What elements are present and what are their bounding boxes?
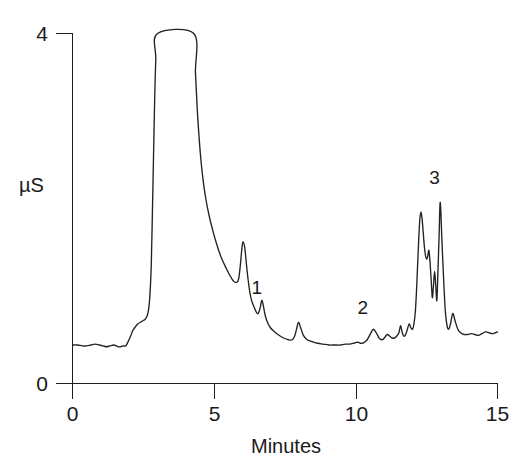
chromatogram-plot: 4 0 0 5 10 15 µS Minutes 123	[0, 0, 527, 474]
x-tick-label-10: 10	[345, 402, 368, 425]
peak-label-group: 123	[251, 167, 439, 318]
chromatogram-trace	[73, 29, 498, 347]
chromatogram-figure: 4 0 0 5 10 15 µS Minutes 123	[0, 0, 527, 474]
peak-label-3: 3	[429, 167, 440, 188]
x-tick-label-0: 0	[67, 402, 79, 425]
peak-label-1: 1	[251, 277, 262, 298]
peak-label-2: 2	[358, 297, 369, 318]
y-axis-title: µS	[19, 174, 44, 196]
x-tick-label-15: 15	[486, 402, 509, 425]
y-tick-label-0: 0	[36, 372, 48, 395]
x-tick-label-5: 5	[209, 402, 221, 425]
y-tick-label-4: 4	[36, 22, 48, 45]
x-axis-title: Minutes	[251, 435, 321, 457]
